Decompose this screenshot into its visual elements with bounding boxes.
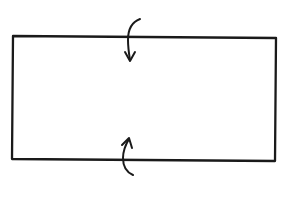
diagram-canvas: [0, 0, 285, 208]
curved-arrow-down-icon: [125, 19, 140, 61]
rectangle-shape: [12, 36, 276, 161]
curved-arrow-up-icon: [122, 138, 133, 175]
